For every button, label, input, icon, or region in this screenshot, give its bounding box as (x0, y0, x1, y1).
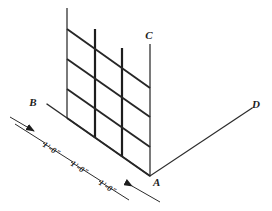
dimension-label-2: 1'-0" (69, 158, 91, 177)
isometric-drawing-svg: 1'-0" 1'-0" 1'-0" B C D A (0, 0, 272, 211)
axis-label-b: B (28, 96, 36, 108)
grid-rail-top (67, 29, 150, 88)
dimension-label-3: 1'-0" (97, 177, 119, 196)
ext-line-1 (15, 124, 45, 143)
dimension-text-1: 1'-0" (41, 139, 63, 158)
axis-label-a: A (152, 176, 160, 188)
dimension-label-1: 1'-0" (41, 139, 63, 158)
axis-label-d: D (251, 98, 260, 110)
dim-line-3 (132, 186, 160, 202)
grid-horizontal-rails (67, 29, 150, 176)
dimension-text-3: 1'-0" (97, 177, 119, 196)
dimension-text-2: 1'-0" (69, 158, 91, 177)
grid-rail-3 (67, 89, 150, 147)
grid-rail-2 (67, 59, 150, 117)
grid-vertical-posts (67, 8, 122, 157)
axis-label-c: C (145, 29, 153, 41)
axis-d-line (150, 108, 252, 176)
isometric-drawing-canvas: 1'-0" 1'-0" 1'-0" B C D A (0, 0, 272, 211)
